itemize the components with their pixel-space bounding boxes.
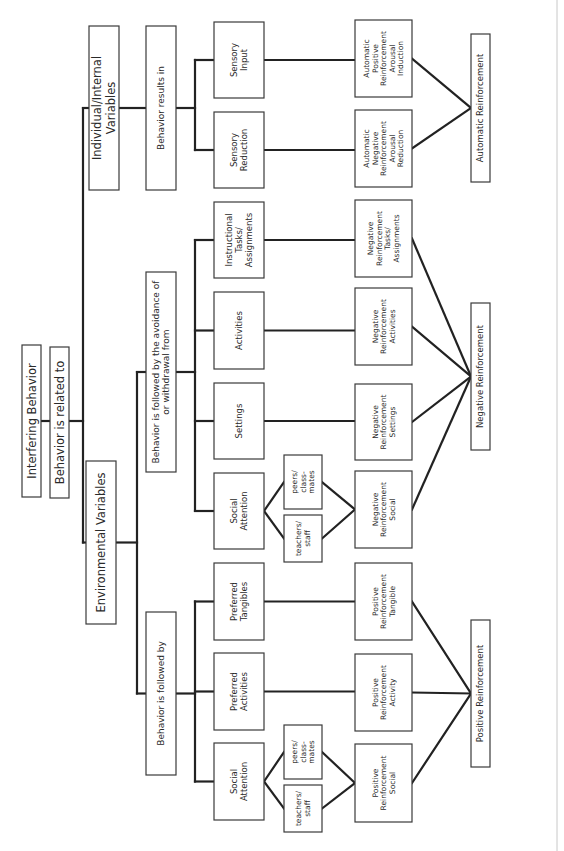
connector-social-attention-neg-teachers [264,511,284,539]
node-label-line: Tangible [388,586,397,618]
connector-out-neg-activities-summary [412,327,471,377]
node-sum-neg: Negative Reinforcement [471,303,490,450]
node-sum-auto: Automatic Reinforcement [471,34,490,182]
node-environmental: Environmental Variables [86,461,116,624]
node-label: Behavior is related to [53,361,67,484]
connector-out-pos-activity-summary [412,693,471,694]
node-out-neg-tasks: NegativeReinforcementTasks/Assignments [355,200,412,277]
node-label-line: Induction [396,41,405,76]
connector-social-attention-pos-peers [264,752,284,782]
connector-out-auto-pos-summary [412,59,471,109]
node-label-line: Preferred [229,582,239,621]
node-label-line: Behavior is followed by [156,641,166,746]
node-label-line: mates [307,740,316,763]
node-teachers-neg: teachers/staff [284,515,322,562]
connector-social-attention-neg-peers [264,482,284,511]
node-label-line: Automatic Reinforcement [475,53,485,162]
node-out-auto-pos: AutomaticPositiveReinforcementArousalInd… [355,20,412,97]
node-label: Positive Reinforcement [475,644,485,742]
node-root_relation: Behavior is related to [50,347,69,498]
node-label-line: Environmental Variables [94,473,108,613]
node-label-line: Positive Reinforcement [475,644,485,742]
node-label-line: Social [229,769,239,794]
node-individual_relation: Behavior results in [146,26,176,190]
node-label-line: Individual/Internal [90,56,104,160]
node-label: SensoryReduction [229,129,249,172]
node-sum-pos: Positive Reinforcement [471,620,490,767]
node-label-line: Tangibles [239,581,249,622]
node-label-line: Assignments [244,212,254,267]
connector-out-neg-tasks-summary [412,239,471,377]
node-label-line: Instructional [224,213,234,266]
node-label-line: Behavior is related to [53,361,67,484]
node-label-line: Preferred [229,672,239,711]
node-label: Negative Reinforcement [475,324,485,428]
node-social-attention-neg: SocialAttention [214,473,264,549]
node-out-pos-social: PositiveReinforcementSocial [355,744,412,822]
node-label-line: Social [388,498,397,520]
node-sensory-reduction: SensoryReduction [214,112,264,188]
node-instructional-tasks: InstructionalTasks/Assignments [214,202,264,278]
node-label-line: Sensory [229,43,239,77]
connector-social-attention-pos-teachers [264,782,284,809]
nodes: Interfering BehaviorBehavior is related … [22,20,490,832]
node-out-auto-neg: AutomaticNegativeReinforcementArousalRed… [355,110,412,187]
node-label: Environmental Variables [94,473,108,613]
node-peers-neg: peers/class-mates [284,455,322,509]
node-label-line: staff [303,799,312,816]
connector-teachers-out-pos-social [322,783,355,809]
node-label: Behavior results in [156,66,166,150]
node-avoidance_relation: Behavior is followed by the avoidance of… [146,272,176,472]
connector-out-pos-tangible-summary [412,602,471,694]
node-label: Behavior is followed by [156,641,166,746]
connector-out-auto-neg-summary [412,108,471,149]
node-label-line: Reduction [396,130,405,168]
connector-peers-out-pos-social [322,752,355,783]
node-label-line: Variables [104,82,118,135]
node-label-line: Reduction [239,129,249,172]
node-social-attention-pos: SocialAttention [214,743,264,820]
node-label: Activities [234,311,244,350]
connector-peers-out-neg-social [322,482,355,510]
node-label-line: Sensory [229,133,239,167]
node-label-line: Activities [239,672,249,711]
node-followed_relation: Behavior is followed by [146,612,176,775]
node-title: Interfering Behavior [22,345,41,497]
node-label-line: Social [388,772,397,794]
node-label-line: Settings [234,403,244,438]
node-label: Automatic Reinforcement [475,53,485,162]
node-label-line: Activity [388,678,397,707]
node-label-line: staff [303,529,312,546]
node-out-neg-settings: NegativeReinforcementSettings [355,384,412,460]
node-label: Interfering Behavior [25,363,39,479]
node-label: peers/class-mates [290,740,316,764]
node-preferred-tangibles: PreferredTangibles [214,563,264,640]
node-label: PreferredTangibles [229,581,249,622]
node-label: peers/class-mates [290,470,316,494]
node-label-line: Activities [388,309,397,343]
node-label: PreferredActivities [229,672,249,711]
node-out-pos-activity: PositiveReinforcementActivity [355,654,412,731]
node-label-line: Social [229,498,239,523]
connector-out-neg-settings-summary [412,377,471,423]
node-label-line: or withdrawal from [161,329,171,414]
node-settings: Settings [214,383,264,459]
node-label-line: Behavior results in [156,66,166,150]
node-label-line: Settings [388,407,397,438]
node-label-line: Assignments [392,214,401,262]
node-preferred-activities: PreferredActivities [214,653,264,730]
node-label-line: Attention [239,762,249,801]
node-label-line: Negative Reinforcement [475,324,485,428]
node-label-line: Interfering Behavior [25,363,39,479]
node-out-pos-tangible: PositiveReinforcementTangible [355,563,412,640]
node-label-line: Behavior is followed by the avoidance of [151,280,161,464]
node-sensory-input: SensoryInput [214,22,264,98]
node-label-line: Tasks/ [234,227,244,254]
node-teachers-pos: teachers/staff [284,785,322,832]
node-out-neg-activities: NegativeReinforcementActivities [355,288,412,365]
node-peers-pos: peers/class-mates [284,725,322,779]
connector-out-pos-social-summary [412,694,471,784]
connector-teachers-out-neg-social [322,510,355,539]
connector-out-neg-social-summary [412,377,471,510]
behavior-function-diagram: Interfering BehaviorBehavior is related … [0,0,564,851]
